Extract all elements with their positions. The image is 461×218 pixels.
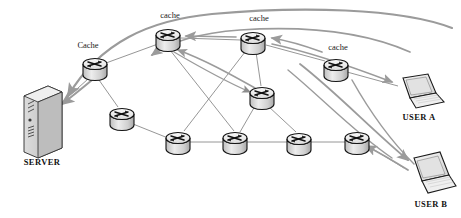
router-cache-2[interactable]: [156, 30, 180, 52]
router-cache-4[interactable]: [324, 60, 348, 82]
server-power-led: [28, 118, 31, 121]
router-cache-1-label: Cache: [77, 40, 98, 50]
router-cache-4-label: cache: [328, 42, 348, 52]
router-core-mid[interactable]: [250, 88, 274, 110]
router-bottom-3[interactable]: [287, 134, 311, 156]
router-left[interactable]: [110, 109, 134, 131]
link-cache3-coremid: [256, 52, 261, 86]
router-bottom-4[interactable]: [345, 133, 369, 155]
network-diagram: SERVER Cache cache: [0, 0, 461, 218]
user-b-label: USER B: [415, 199, 448, 209]
server-label: SERVER: [24, 157, 61, 167]
link-cache2-rb2: [170, 50, 234, 131]
router-cache-2-label: cache: [160, 10, 180, 20]
user-a-label: USER A: [403, 112, 436, 122]
router-bottom-2[interactable]: [223, 133, 247, 155]
router-cache-3[interactable]: [241, 33, 265, 55]
server-tower: [24, 86, 62, 158]
flow-user-b-request: [366, 146, 408, 170]
router-bottom-1[interactable]: [166, 133, 190, 155]
link-coremid-rb2: [240, 106, 255, 132]
router-cache-3-label: cache: [249, 13, 269, 23]
flow-core-mid-upstream: [178, 50, 255, 88]
diagram-canvas: SERVER Cache cache: [0, 0, 461, 218]
link-server-cache1: [58, 79, 88, 106]
flow-user-a-inner-request: [152, 29, 410, 55]
link-coremid-rb3: [268, 106, 296, 132]
flow-cache2-downstream: [174, 52, 250, 92]
link-cache3-rb1: [184, 52, 245, 131]
link-rleft-rb1: [133, 124, 168, 138]
laptop-user-a[interactable]: [403, 74, 444, 108]
flow-cache3-to-cache2: [186, 36, 236, 37]
router-cache-1[interactable]: [83, 59, 107, 81]
link-cache1-rleft: [99, 80, 118, 107]
link-cache3-cache4: [266, 45, 325, 61]
laptop-user-b[interactable]: [414, 152, 456, 193]
